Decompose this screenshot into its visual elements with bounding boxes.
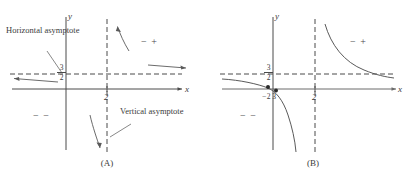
panel-a-horizontal-asymptote-value: 3 2 [57, 64, 66, 81]
panel-b-y-intercept-numerator: 2 [267, 92, 271, 101]
panel-a-ha-numerator: 3 [57, 64, 66, 72]
panel-a-x-tick-label: 2 [104, 92, 108, 102]
panel-b-caption: (B) [293, 158, 333, 168]
panel-a-ha-denominator: 2 [57, 74, 66, 82]
panel-a-x-axis-arrowhead [178, 87, 183, 91]
panel-b-x-tick-label: 2 [312, 92, 316, 102]
panel-a-y-axis-label: y [68, 11, 72, 21]
panel-b-y-intercept-sign: − [262, 93, 266, 101]
panel-b-x-axis-arrowhead [392, 87, 397, 91]
panel-a-vertical-asymptote-leader [110, 124, 131, 137]
panel-b-y-intercept-label: − 2 3 [262, 93, 276, 101]
panel-b-sign-upper-right: − + [350, 36, 367, 47]
panel-b-curve-right-branch [325, 24, 394, 78]
panel-b-graph [220, 17, 396, 155]
panel-b-y-intercept-denominator: 3 [272, 92, 276, 101]
panel-a-caption: (A) [87, 158, 127, 168]
panel-a-arrow-left [14, 77, 58, 82]
panel-a-horizontal-asymptote-label: Horizontal asymptote [6, 26, 76, 36]
panel-b-y-axis-label: y [275, 11, 279, 21]
panel-b-horizontal-asymptote-value: 3 2 [264, 64, 273, 81]
panel-b-curve-left-branch [222, 79, 296, 152]
panel-a-arrow-right [148, 65, 186, 70]
panel-b-x-axis-label: x [398, 84, 402, 94]
panel-b-ha-denominator: 2 [264, 74, 273, 82]
figure-container: Horizontal asymptote Vertical asymptote … [0, 0, 416, 181]
panel-a-arrow-down-branch [90, 115, 102, 148]
panel-a-arrow-up-branch [116, 27, 129, 52]
panel-a-x-axis-label: x [185, 84, 189, 94]
panel-a-sign-upper-right: − + [141, 36, 158, 47]
panel-a-vertical-asymptote-label: Vertical asymptote [120, 107, 182, 117]
panel-a-sign-lower-left: − − [33, 110, 50, 121]
panel-b-sign-lower-left: − − [240, 110, 257, 121]
panel-a-graph [10, 17, 186, 155]
panel-b-ha-numerator: 3 [264, 64, 273, 72]
panel-b-x-intercept-dot [266, 85, 270, 89]
panel-b-y-intercept-fraction: 2 3 [267, 93, 276, 101]
